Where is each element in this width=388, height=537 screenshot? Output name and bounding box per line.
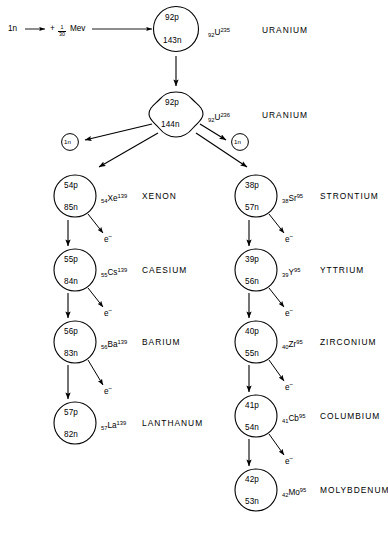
arrow-caesium-beta-emission bbox=[88, 288, 103, 307]
u235-neutron-count: 143n bbox=[163, 37, 182, 45]
caesium-proton-count: 55p bbox=[64, 256, 78, 264]
arrow-barium-beta-emission bbox=[88, 360, 103, 385]
neutron-right-label: 1n bbox=[234, 139, 241, 145]
yttrium-element-name: YTTRIUM bbox=[320, 266, 364, 274]
caesium-isotope-notation: 55Cs139 bbox=[101, 268, 127, 279]
barium-element-name: BARIUM bbox=[142, 338, 181, 346]
u235-mass-number: 235 bbox=[220, 27, 230, 33]
lanthanum-proton-count: 57p bbox=[64, 409, 78, 417]
strontium-symbol: Sr bbox=[288, 194, 296, 203]
energy-unit-label: Mev bbox=[70, 25, 85, 33]
barium-electron-charge: − bbox=[109, 385, 113, 392]
lanthanum-element-name: LANTHANUM bbox=[142, 419, 203, 427]
strontium-isotope-notation: 38Sr95 bbox=[282, 194, 303, 205]
columbium-isotope-notation: 41Cb95 bbox=[282, 414, 305, 425]
arrow-strontium-beta-emission bbox=[269, 214, 284, 233]
strontium-electron-label: e− bbox=[285, 234, 293, 244]
zirconium-mass-number: 95 bbox=[296, 339, 302, 345]
strontium-mass-number: 95 bbox=[297, 193, 303, 199]
fission-diagram: 1n + 1 30 Mev 92p 143n 92U235 URANIUM 92… bbox=[0, 0, 388, 537]
molybdenum-proton-count: 42p bbox=[245, 476, 259, 484]
barium-isotope-notation: 56Ba139 bbox=[101, 340, 127, 351]
columbium-symbol: Cb bbox=[288, 414, 298, 423]
yttrium-neutron-count: 56n bbox=[245, 278, 259, 286]
xenon-proton-count: 54p bbox=[64, 182, 78, 190]
zirconium-isotope-notation: 40Zr95 bbox=[282, 340, 303, 351]
barium-electron-label: e− bbox=[104, 386, 112, 396]
u236-isotope-notation: 92U236 bbox=[208, 113, 230, 124]
xenon-element-name: XENON bbox=[142, 192, 177, 200]
incoming-neutron-label: 1n bbox=[8, 25, 17, 33]
energy-denominator: 30 bbox=[58, 31, 66, 38]
u236-mass-number: 236 bbox=[220, 112, 230, 118]
lanthanum-isotope-notation: 57La139 bbox=[101, 421, 126, 432]
caesium-mass-number: 139 bbox=[117, 267, 127, 273]
columbium-mass-number: 95 bbox=[299, 413, 305, 419]
u235-proton-count: 92p bbox=[165, 14, 179, 22]
u235-element-name: URANIUM bbox=[262, 26, 308, 34]
strontium-neutron-count: 57n bbox=[245, 204, 259, 212]
energy-fraction: 1 30 bbox=[58, 23, 66, 39]
arrow-yttrium-beta-emission bbox=[269, 288, 284, 307]
u236-element-name: URANIUM bbox=[262, 111, 308, 119]
yttrium-proton-count: 39p bbox=[245, 256, 259, 264]
xenon-symbol: Xe bbox=[107, 194, 117, 203]
xenon-isotope-notation: 54Xe139 bbox=[101, 194, 127, 205]
zirconium-electron-label: e− bbox=[285, 382, 293, 392]
columbium-proton-count: 41p bbox=[245, 402, 259, 410]
caesium-symbol: Cs bbox=[107, 268, 117, 277]
strontium-element-name: STRONTIUM bbox=[320, 192, 379, 200]
lanthanum-neutron-count: 82n bbox=[64, 431, 78, 439]
u235-isotope-notation: 92U235 bbox=[208, 28, 230, 39]
zirconium-proton-count: 40p bbox=[245, 328, 259, 336]
strontium-proton-count: 38p bbox=[245, 182, 259, 190]
zirconium-neutron-count: 55n bbox=[245, 350, 259, 358]
columbium-element-name: COLUMBIUM bbox=[320, 412, 380, 420]
xenon-mass-number: 139 bbox=[117, 193, 127, 199]
lanthanum-symbol: La bbox=[107, 421, 116, 430]
columbium-electron-charge: − bbox=[290, 455, 294, 462]
neutron-left-label: 1n bbox=[64, 139, 71, 145]
molybdenum-neutron-count: 53n bbox=[245, 498, 259, 506]
molybdenum-symbol: Mo bbox=[288, 488, 299, 497]
yttrium-isotope-notation: 39Y95 bbox=[282, 268, 300, 279]
barium-mass-number: 139 bbox=[117, 339, 127, 345]
u236-neutron-count: 144n bbox=[161, 121, 180, 129]
columbium-neutron-count: 54n bbox=[245, 424, 259, 432]
caesium-electron-label: e− bbox=[104, 308, 112, 318]
yttrium-electron-label: e− bbox=[285, 308, 293, 318]
u236-proton-count: 92p bbox=[165, 99, 179, 107]
arrow-u236-to-neutron-left bbox=[85, 124, 152, 140]
molybdenum-mass-number: 95 bbox=[300, 487, 306, 493]
caesium-neutron-count: 84n bbox=[64, 278, 78, 286]
molybdenum-element-name: MOLYBDENUM bbox=[320, 486, 388, 494]
arrow-u236-to-neutron-right bbox=[200, 124, 226, 140]
zirconium-element-name: ZIRCONIUM bbox=[320, 338, 376, 346]
barium-proton-count: 56p bbox=[64, 328, 78, 336]
caesium-electron-charge: − bbox=[109, 307, 113, 314]
xenon-electron-label: e− bbox=[104, 234, 112, 244]
xenon-electron-charge: − bbox=[109, 233, 113, 240]
yttrium-electron-charge: − bbox=[290, 307, 294, 314]
strontium-electron-charge: − bbox=[290, 233, 294, 240]
barium-neutron-count: 83n bbox=[64, 350, 78, 358]
caesium-element-name: CAESIUM bbox=[142, 266, 187, 274]
yttrium-mass-number: 95 bbox=[294, 267, 300, 273]
arrow-xenon-beta-emission bbox=[88, 214, 103, 233]
arrow-u236-to-xenon bbox=[99, 133, 158, 167]
columbium-electron-label: e− bbox=[285, 456, 293, 466]
barium-symbol: Ba bbox=[107, 340, 117, 349]
xenon-neutron-count: 85n bbox=[64, 204, 78, 212]
lanthanum-mass-number: 139 bbox=[117, 420, 127, 426]
arrow-zirconium-beta-emission bbox=[269, 360, 284, 381]
zirconium-electron-charge: − bbox=[290, 381, 294, 388]
molybdenum-isotope-notation: 42Mo95 bbox=[282, 488, 306, 499]
arrow-columbium-beta-emission bbox=[269, 434, 284, 455]
plus-sign: + bbox=[50, 25, 55, 33]
